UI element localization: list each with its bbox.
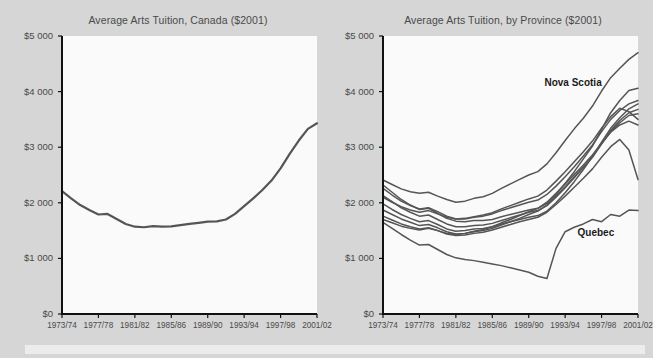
y-tick-label: $0 bbox=[324, 309, 374, 319]
y-tick-label: $4 000 bbox=[3, 87, 53, 97]
chart-title-by-province: Average Arts Tuition, by Province ($2001… bbox=[327, 14, 653, 26]
x-tick-label: 2001/02 bbox=[615, 321, 653, 331]
y-tick-label: $5 000 bbox=[324, 31, 374, 41]
y-tick-label: $4 000 bbox=[324, 87, 374, 97]
y-tick-label: $3 000 bbox=[3, 142, 53, 152]
chart-panel-canada: Average Arts Tuition, Canada ($2001) $0$… bbox=[0, 0, 326, 345]
bottom-band bbox=[25, 345, 645, 354]
y-tick-label: $2 000 bbox=[324, 198, 374, 208]
y-tick-label: $5 000 bbox=[3, 31, 53, 41]
y-tick-label: $3 000 bbox=[324, 142, 374, 152]
chart-panel-by-province: Average Arts Tuition, by Province ($2001… bbox=[327, 0, 653, 345]
y-tick-label: $1 000 bbox=[3, 253, 53, 263]
annotation-quebec: Quebec bbox=[578, 227, 615, 238]
y-tick-label: $0 bbox=[3, 309, 53, 319]
y-tick-label: $2 000 bbox=[3, 198, 53, 208]
annotation-nova-scotia: Nova Scotia bbox=[544, 77, 601, 88]
y-tick-label: $1 000 bbox=[324, 253, 374, 263]
chart-title-canada: Average Arts Tuition, Canada ($2001) bbox=[0, 14, 326, 26]
plot-area-canada bbox=[62, 36, 317, 314]
figure-canvas: Average Arts Tuition, Canada ($2001) $0$… bbox=[0, 0, 653, 358]
